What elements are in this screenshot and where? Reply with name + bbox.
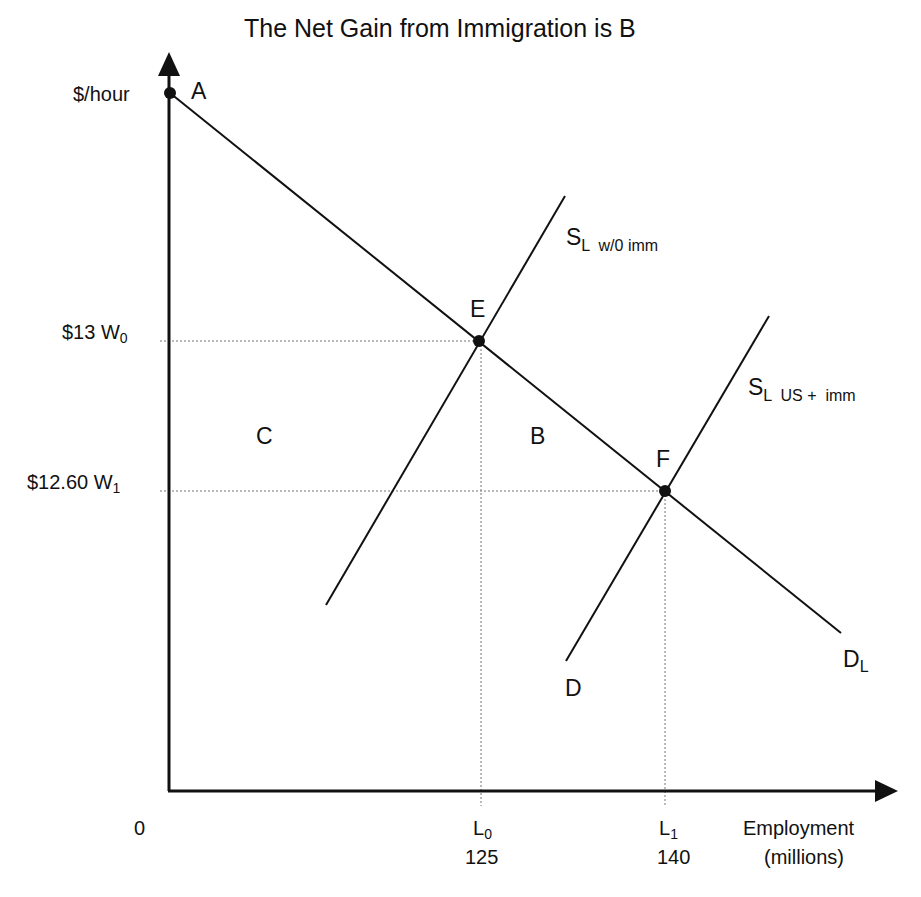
x-axis-arrow-icon [875, 780, 898, 802]
x-axis-label-line1: Employment [743, 818, 854, 838]
x-axis-label-line2: (millions) [764, 847, 844, 867]
area-c-label: C [256, 425, 273, 448]
supply-with-immigration-label: SL US + imm [748, 376, 856, 404]
chart-title: The Net Gain from Immigration is B [244, 16, 636, 41]
l0-tick-symbol: L0 [473, 818, 492, 841]
point-e-marker [473, 335, 485, 347]
l1-tick-symbol: L1 [659, 818, 678, 841]
point-f-marker [659, 485, 671, 497]
point-a-label: A [191, 80, 206, 103]
y-axis-label: $/hour [73, 84, 130, 104]
w0-tick-label: $13 W0 [62, 322, 128, 345]
point-f-label: F [656, 448, 670, 471]
l1-tick-value: 140 [657, 847, 690, 867]
origin-label: 0 [134, 818, 145, 838]
point-a-marker [164, 87, 176, 99]
point-e-label: E [470, 298, 485, 321]
area-b-label: B [530, 425, 545, 448]
l0-tick-value: 125 [465, 847, 498, 867]
chart-canvas [0, 0, 921, 897]
supply-curve-without-immigration [326, 196, 565, 605]
demand-curve-label: DL [843, 648, 869, 675]
y-axis-arrow-icon [158, 52, 180, 76]
point-d-label: D [565, 677, 582, 700]
w1-tick-label: $12.60 W1 [27, 472, 120, 495]
supply-without-immigration-label: SL w/0 imm [566, 226, 658, 254]
